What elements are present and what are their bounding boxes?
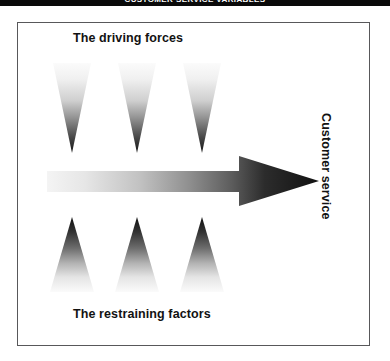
restraining-factor-wedge-1-shape [50,217,94,292]
figure-frame: The driving forces The restraining facto… [17,22,370,346]
rightward-gradient-arrow [47,154,319,208]
restraining-factor-wedge-2 [115,217,159,292]
restraining-factor-wedge-3-shape [180,217,224,292]
driving-force-wedge-3-shape [183,63,221,153]
restraining-factors-label: The restraining factors [73,307,211,321]
driving-force-wedge-1 [53,63,91,153]
driving-forces-label: The driving forces [73,31,183,45]
driving-force-wedge-2-shape [118,63,156,153]
restraining-factor-wedge-2-shape [115,217,159,292]
driving-force-wedge-3 [183,63,221,153]
rightward-gradient-arrow-shape [47,154,319,208]
driving-force-wedge-2 [118,63,156,153]
driving-force-wedge-1-shape [53,63,91,153]
customer-service-label: Customer service [319,113,333,220]
restraining-factor-wedge-1 [50,217,94,292]
running-head-bar: CUSTOMER SERVICE VARIABLES [0,0,390,6]
restraining-factor-wedge-3 [180,217,224,292]
running-head-text: CUSTOMER SERVICE VARIABLES [0,0,390,4]
